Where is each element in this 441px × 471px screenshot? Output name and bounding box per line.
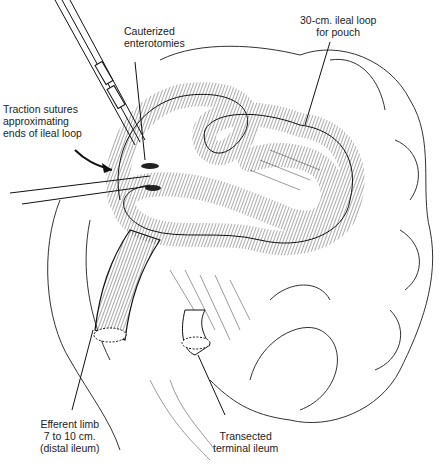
leader-transected [198, 355, 225, 415]
label-cauterized-enterotomies: Cauterized enterotomies [124, 25, 185, 49]
enterotomy-upper [141, 163, 159, 169]
label-ileal-loop: 30-cm. ileal loop for pouch [300, 14, 376, 38]
surgical-illustration [0, 0, 441, 471]
leader-ileal-loop [305, 42, 330, 125]
label-efferent-limb: Efferent limb 7 to 10 cm. (distal ileum) [40, 418, 100, 454]
label-traction-sutures: Traction sutures approximating ends of i… [3, 103, 82, 139]
label-transected-ileum: Transected terminal ileum [213, 430, 278, 454]
leader-efferent [72, 330, 93, 410]
efferent-limb [95, 230, 160, 340]
